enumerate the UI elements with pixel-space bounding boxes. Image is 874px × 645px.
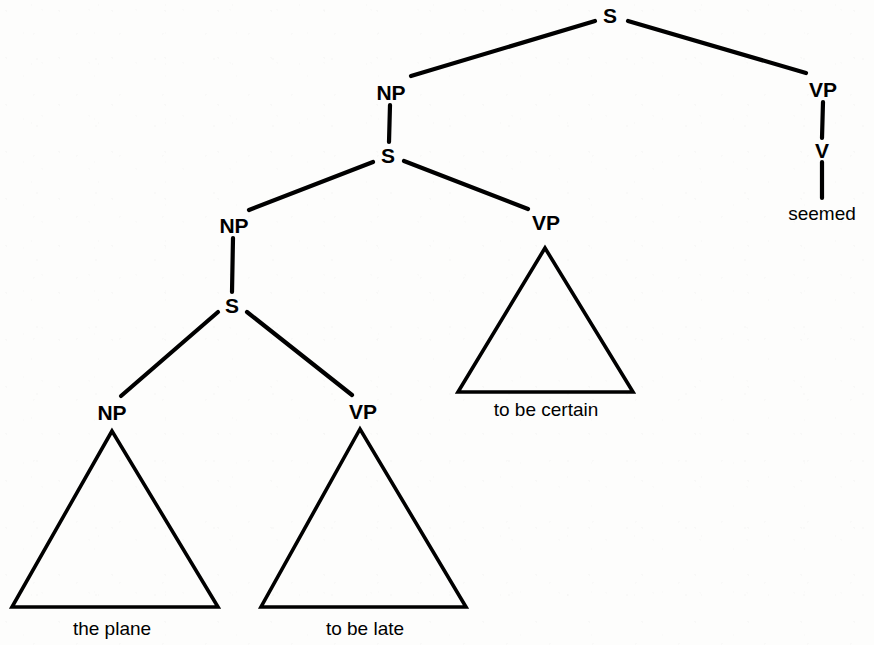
node-np-level3: NP — [97, 402, 126, 423]
branch-s-l3-to-np-l3 — [121, 312, 218, 396]
terminal-seemed: seemed — [788, 204, 856, 223]
triangle-the-plane — [12, 431, 218, 607]
branch-vp-right-to-v — [822, 102, 823, 138]
tree-diagram-canvas — [0, 0, 874, 645]
branch-np-l1-to-s-l2 — [389, 105, 390, 142]
node-s-level3: S — [225, 295, 239, 316]
branch-s-top-to-vp-right — [628, 21, 806, 73]
branch-s-l2-to-vp-l2 — [404, 161, 528, 209]
branch-np-l2-to-s-l3 — [232, 238, 233, 292]
branch-s-top-to-np — [411, 21, 595, 76]
node-vp-matrix: VP — [809, 79, 837, 100]
node-vp-level3: VP — [349, 401, 377, 422]
node-v-matrix: V — [815, 140, 829, 161]
node-np-level2: NP — [219, 215, 248, 236]
node-s-top: S — [603, 5, 617, 26]
terminal-to-be-late: to be late — [326, 619, 404, 638]
terminal-the-plane: the plane — [73, 619, 151, 638]
node-s-level2: S — [381, 145, 395, 166]
branch-s-l2-to-np-l2 — [249, 162, 373, 210]
node-vp-level2: VP — [532, 212, 560, 233]
triangle-to-be-certain — [458, 248, 633, 392]
elision-triangles — [12, 248, 633, 607]
branch-lines — [121, 21, 823, 396]
terminal-to-be-certain: to be certain — [494, 400, 599, 419]
branch-s-l3-to-vp-l3 — [247, 312, 352, 395]
node-np-level1: NP — [376, 82, 405, 103]
syntax-tree-figure: { "figure": { "kind": "syntactic-phrase-… — [0, 0, 874, 645]
triangle-to-be-late — [261, 429, 466, 607]
